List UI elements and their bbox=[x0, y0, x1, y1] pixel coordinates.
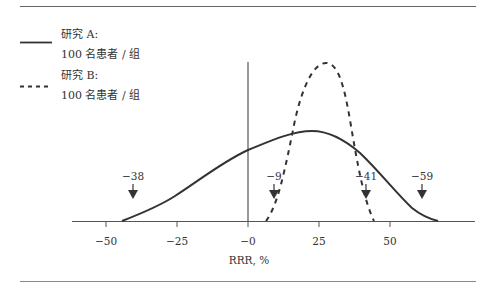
tick-label: 50 bbox=[383, 235, 396, 247]
marker-label: −38 bbox=[122, 170, 144, 182]
marker-minus-59: −59 bbox=[411, 170, 433, 199]
rrr-distribution-chart: 研究 A: 100 名患者 / 组 研究 B: 100 名患者 / 组 −50 … bbox=[0, 0, 491, 295]
arrow-head-icon bbox=[269, 190, 279, 199]
legend-b-detail: 100 名患者 / 组 bbox=[61, 88, 140, 102]
series-study-b-curve bbox=[266, 63, 374, 221]
arrow-head-icon bbox=[128, 190, 138, 199]
marker-label: −9 bbox=[266, 170, 281, 182]
marker-minus-38: −38 bbox=[122, 170, 144, 199]
tick-label: 25 bbox=[312, 235, 325, 247]
marker-label: −59 bbox=[411, 170, 433, 182]
legend-a-name: 研究 A: bbox=[61, 27, 98, 41]
tick-label: −50 bbox=[95, 235, 117, 247]
marker-minus-41: −41 bbox=[355, 170, 377, 199]
arrow-head-icon bbox=[361, 190, 371, 199]
tick-label: −0 bbox=[240, 235, 255, 247]
x-axis-title: RRR, % bbox=[229, 254, 269, 266]
marker-label: −41 bbox=[355, 170, 377, 182]
tick-label: −25 bbox=[166, 235, 188, 247]
x-axis: −50 −25 −0 25 50 RRR, % bbox=[72, 221, 475, 266]
legend: 研究 A: 100 名患者 / 组 研究 B: 100 名患者 / 组 bbox=[20, 27, 140, 102]
legend-a-detail: 100 名患者 / 组 bbox=[61, 47, 140, 61]
arrow-head-icon bbox=[417, 190, 427, 199]
marker-minus-9: −9 bbox=[266, 170, 281, 199]
legend-b-name: 研究 B: bbox=[61, 68, 98, 82]
